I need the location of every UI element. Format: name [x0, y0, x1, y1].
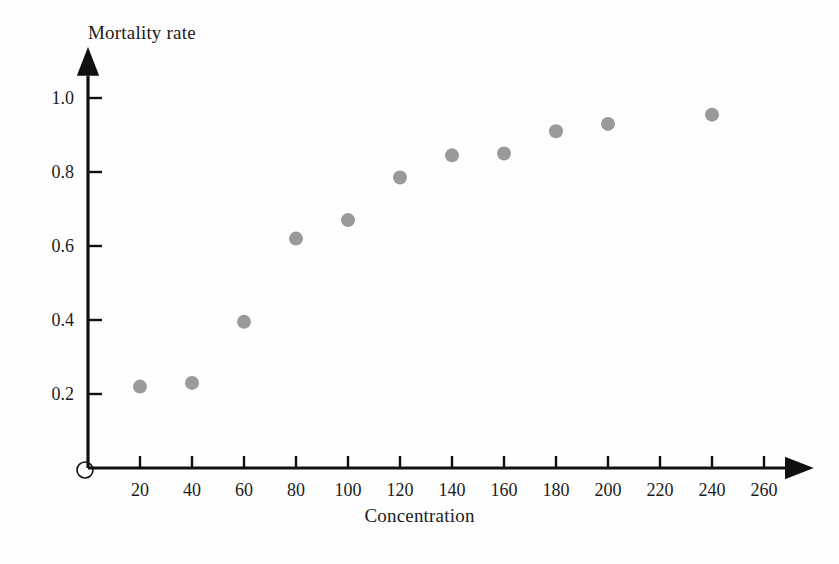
data-point: [237, 315, 251, 329]
data-point: [133, 380, 147, 394]
x-tick-label: 160: [491, 480, 518, 501]
data-point: [549, 124, 563, 138]
data-point: [497, 147, 511, 161]
x-tick-label: 120: [387, 480, 414, 501]
x-tick-label: 100: [335, 480, 362, 501]
x-tick-label: 20: [131, 480, 149, 501]
origin-marker: [77, 462, 93, 478]
data-point: [341, 213, 355, 227]
x-tick-label: 240: [699, 480, 726, 501]
x-tick-label: 60: [235, 480, 253, 501]
data-point: [393, 171, 407, 185]
x-tick-label: 40: [183, 480, 201, 501]
data-point: [601, 117, 615, 131]
x-axis-title: Concentration: [0, 505, 839, 527]
x-tick-label: 80: [287, 480, 305, 501]
y-tick-label: 0.4: [52, 310, 75, 331]
tick-marks-layer: [88, 98, 764, 468]
x-tick-label: 260: [751, 480, 778, 501]
y-tick-label: 0.8: [52, 162, 75, 183]
data-point: [289, 232, 303, 246]
data-point: [445, 148, 459, 162]
data-point: [705, 108, 719, 122]
axes-layer: [77, 76, 785, 478]
y-tick-label: 1.0: [52, 88, 75, 109]
x-tick-label: 200: [595, 480, 622, 501]
x-tick-label: 220: [647, 480, 674, 501]
y-tick-label: 0.6: [52, 236, 75, 257]
data-point: [185, 376, 199, 390]
chart-figure: Mortality rate O204060801001201401601802…: [0, 0, 839, 564]
x-tick-label: 140: [439, 480, 466, 501]
data-points-layer: [133, 108, 719, 394]
y-tick-label: 0.2: [52, 384, 75, 405]
x-tick-label: 180: [543, 480, 570, 501]
